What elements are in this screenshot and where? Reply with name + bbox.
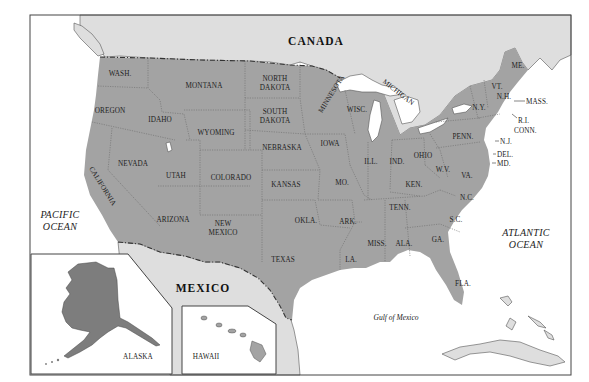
label-wash: WASH. — [109, 70, 132, 78]
label-ala: ALA. — [396, 240, 413, 248]
label-atlantic-2: OCEAN — [509, 239, 544, 250]
label-new-mexico-1: NEW — [215, 220, 232, 228]
label-la: LA. — [345, 256, 357, 264]
label-me: ME. — [512, 62, 525, 70]
label-del: DEL. — [497, 151, 513, 159]
label-conn: CONN. — [514, 127, 537, 135]
label-south-dakota-2: DAKOTA — [260, 117, 291, 125]
label-ind: IND. — [390, 158, 405, 166]
label-wyoming: WYOMING — [197, 129, 234, 137]
label-sc: S.C. — [450, 216, 463, 224]
label-ny: N.Y. — [472, 104, 486, 112]
label-mass: MASS. — [526, 98, 548, 106]
label-pacific-2: OCEAN — [43, 221, 78, 232]
label-alaska: ALASKA — [123, 353, 153, 361]
label-miss: MISS. — [367, 240, 386, 248]
label-okla: OKLA. — [295, 217, 317, 225]
hawaii-inset-frame — [182, 306, 276, 374]
label-north-dakota-2: DAKOTA — [260, 84, 291, 92]
label-va: VA. — [461, 172, 473, 180]
label-nebraska: NEBRASKA — [262, 144, 302, 152]
label-oregon: OREGON — [95, 107, 126, 115]
label-nh: N.H. — [497, 93, 511, 101]
label-mexico: MEXICO — [176, 282, 231, 294]
us-map: CANADA MEXICO PACIFIC OCEAN ATLANTIC OCE… — [0, 0, 589, 382]
label-nevada: NEVADA — [118, 160, 149, 168]
label-gulf-of-mexico: Gulf of Mexico — [374, 313, 419, 322]
label-nj: N.J. — [500, 138, 512, 146]
label-pacific-1: PACIFIC — [39, 209, 79, 220]
label-arizona: ARIZONA — [156, 216, 190, 224]
label-nc: N.C. — [460, 194, 474, 202]
label-ohio: OHIO — [414, 152, 432, 160]
label-ga: GA. — [432, 236, 445, 244]
label-north-dakota-1: NORTH — [263, 75, 288, 83]
label-new-mexico-2: MEXICO — [209, 229, 238, 237]
label-atlantic-1: ATLANTIC — [501, 227, 550, 238]
label-ken: KEN. — [406, 181, 423, 189]
label-south-dakota-1: SOUTH — [263, 108, 287, 116]
label-ill: ILL. — [364, 158, 377, 166]
label-fla: FLA. — [455, 280, 471, 288]
label-ark: ARK. — [339, 218, 356, 226]
label-iowa: IOWA — [320, 140, 340, 148]
label-hawaii: HAWAII — [193, 353, 220, 361]
label-idaho: IDAHO — [148, 116, 172, 124]
label-vt: VT. — [491, 83, 502, 91]
label-texas: TEXAS — [271, 256, 295, 264]
label-md: MD. — [497, 160, 511, 168]
label-canada: CANADA — [288, 35, 344, 47]
label-colorado: COLORADO — [211, 174, 252, 182]
label-montana: MONTANA — [186, 82, 224, 90]
label-wisc: WISC. — [347, 106, 367, 114]
label-tenn: TENN. — [389, 204, 411, 212]
label-utah: UTAH — [166, 172, 186, 180]
label-kansas: KANSAS — [271, 181, 300, 189]
label-penn: PENN. — [452, 133, 473, 141]
label-ri: R.I. — [518, 117, 529, 125]
label-mo: MO. — [335, 179, 349, 187]
label-wv: W.V. — [436, 166, 450, 174]
